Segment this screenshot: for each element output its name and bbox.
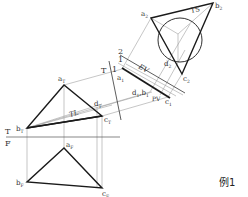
label-b-front: bF — [16, 179, 24, 188]
inscribed-circle — [158, 18, 202, 62]
fold-label-T-aux: T — [101, 66, 107, 75]
annotation-pv: PV — [152, 95, 161, 102]
label-a-front: aF — [66, 141, 73, 150]
fold-label-1-b: 1 — [118, 55, 123, 64]
label-a-aux2: a2 — [141, 10, 148, 19]
descriptive-geometry-drawing: T F T 1 1 2 TL EV PV TS aT bT cT dT aF b… — [0, 0, 248, 197]
fold-label-2: 2 — [118, 47, 123, 56]
fold-label-T: T — [5, 127, 11, 136]
label-a-top: aT — [58, 75, 65, 84]
true-shape-triangle — [151, 3, 213, 74]
label-b-top: bT — [16, 125, 24, 134]
front-view-triangle — [27, 148, 102, 188]
label-db-aux1: d1,b1 — [132, 89, 149, 98]
annotation-tl: TL — [68, 108, 80, 118]
label-c-top: cT — [104, 116, 111, 125]
label-a-aux1: a1 — [117, 74, 124, 83]
label-c-front: cF — [102, 190, 109, 197]
label-d-aux2: d2 — [164, 60, 171, 69]
fold-label-F: F — [5, 139, 11, 148]
label-c-aux1: c1 — [165, 98, 172, 107]
annotation-ev: EV — [136, 62, 150, 75]
label-b-aux2: b2 — [215, 2, 222, 11]
figure-caption: 例1 — [219, 174, 235, 189]
label-d-top: dT — [94, 100, 102, 109]
fold-label-1-aux: 1 — [112, 65, 117, 74]
label-c-aux2: c2 — [183, 75, 190, 84]
annotation-ts: TS — [190, 5, 201, 15]
